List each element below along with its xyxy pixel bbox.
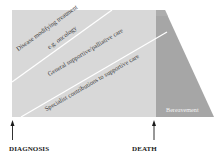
diagnosis-arrow-head [11, 120, 15, 126]
death-label: DEATH [132, 145, 157, 153]
care-continuum-diagram: Disease modifying treatment e.g. oncolog… [0, 0, 223, 159]
care-area [12, 10, 156, 117]
bereavement-top-edge [156, 10, 168, 16]
diagnosis-label: DIAGNOSIS [9, 145, 49, 153]
death-arrow-head [152, 120, 156, 126]
bereavement-label: Bereavement [166, 106, 199, 113]
bereavement-area [156, 10, 214, 117]
diagram-shapes [0, 0, 223, 159]
